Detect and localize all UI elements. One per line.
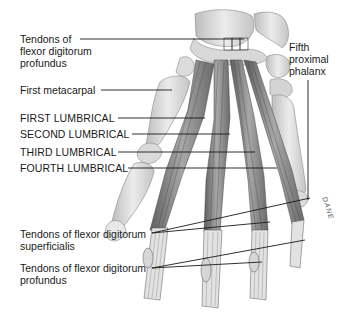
label-fourth-lumbrical: FOURTH LUMBRICAL xyxy=(20,162,128,174)
label-fifth-proximal-phalanx: Fifth proximal phalanx xyxy=(289,41,329,77)
label-line: phalanx xyxy=(289,65,329,77)
label-fds-tendons: Tendons of flexor digitorum superficiali… xyxy=(20,228,146,252)
label-line: flexor digitorum xyxy=(20,45,92,57)
label-line: Tendons of xyxy=(20,33,92,45)
label-first-lumbrical: FIRST LUMBRICAL xyxy=(20,112,115,124)
label-fdp-tendons-bottom: Tendons of flexor digitorum profundus xyxy=(20,262,146,286)
label-third-lumbrical: THIRD LUMBRICAL xyxy=(20,146,117,158)
label-line: proximal xyxy=(289,53,329,65)
label-line: Fifth xyxy=(289,41,329,53)
label-line: Tendons of flexor digitorum xyxy=(20,228,146,240)
label-first-metacarpal: First metacarpal xyxy=(20,84,95,96)
lumbrical-anatomy-figure: Tendons of flexor digitorum profundus Fi… xyxy=(0,0,347,321)
label-second-lumbrical: SECOND LUMBRICAL xyxy=(20,128,130,140)
label-line: profundus xyxy=(20,274,146,286)
label-line: superficialis xyxy=(20,240,146,252)
label-line: Tendons of flexor digitorum xyxy=(20,262,146,274)
label-line: profundus xyxy=(20,57,92,69)
label-fdp-top: Tendons of flexor digitorum profundus xyxy=(20,33,92,69)
